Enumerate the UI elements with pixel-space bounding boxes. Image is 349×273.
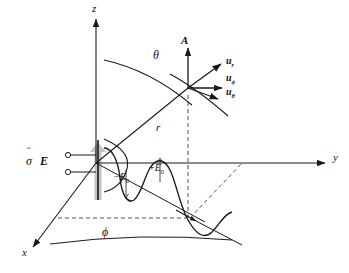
u-phi-subscript: ϕ <box>232 78 236 85</box>
vector-label-u-r: ur <box>226 56 234 68</box>
radial-distance-label: r <box>156 122 160 133</box>
angle-label-theta: θ <box>153 49 159 61</box>
vector-ur-arrow <box>188 64 221 88</box>
minus-E-subscript: 0 <box>126 177 129 184</box>
theta-arc <box>104 60 192 105</box>
dashed-y-projection <box>190 163 242 218</box>
vector-label-A: A <box>181 35 188 46</box>
phi-arc <box>50 237 232 244</box>
sigma-hat-accent: ˆ <box>27 147 30 157</box>
field-label-minus-E0: −E0 <box>114 172 129 184</box>
vector-utheta-arrow <box>188 88 218 99</box>
plus-E-subscript: 0 <box>161 168 164 175</box>
sinusoidal-wave <box>104 148 232 236</box>
axis-label-x: x <box>22 247 27 258</box>
diagram-canvas <box>0 0 349 273</box>
E-symbol: E <box>40 154 48 168</box>
vector-label-u-phi: uϕ <box>226 73 235 85</box>
x-axis <box>33 163 96 247</box>
feed-terminals <box>65 152 96 174</box>
u-r-subscript: r <box>232 61 234 68</box>
field-label-plus-E0: +E0 <box>149 163 164 175</box>
u-theta-subscript: θ <box>232 92 235 99</box>
radial-line-r <box>96 88 188 163</box>
source-label: ˆ σ E <box>26 155 48 167</box>
angle-label-phi: ϕ <box>102 226 108 238</box>
radiation-pattern-diagram: z y x θ ϕ r A ur uϕ uθ ˆ σ E −E0 +E0 <box>0 0 349 273</box>
axis-label-z: z <box>92 3 96 14</box>
axis-label-y: y <box>333 152 338 163</box>
vector-label-u-theta: uθ <box>226 87 235 99</box>
